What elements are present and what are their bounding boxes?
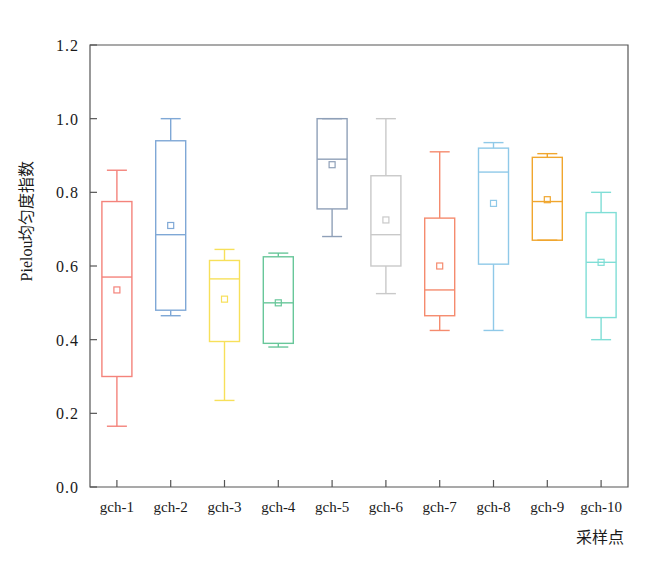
y-tick-label: 0.4 [56, 332, 79, 349]
boxplot-svg: 0.00.20.40.60.81.01.2 gch-1gch-2gch-3gch… [0, 0, 664, 577]
y-tick-label: 0.0 [56, 479, 79, 496]
x-axis-category-label: gch-5 [315, 499, 349, 515]
x-axis-category-label: gch-10 [580, 499, 622, 515]
y-tick-label: 0.8 [56, 184, 79, 201]
figure-background [0, 0, 664, 577]
x-axis-category-label: gch-7 [423, 499, 458, 515]
y-tick-label: 0.6 [56, 258, 79, 275]
x-axis-category-label: gch-9 [530, 499, 564, 515]
y-axis-title: Pielou均匀度指数 [18, 161, 35, 282]
y-tick-label: 1.2 [56, 37, 79, 54]
y-tick-label: 1.0 [56, 111, 79, 128]
chart-figure: 0.00.20.40.60.81.01.2 gch-1gch-2gch-3gch… [0, 0, 664, 577]
x-axis-category-label: gch-4 [261, 499, 296, 515]
x-axis-category-label: gch-8 [476, 499, 510, 515]
y-tick-label: 0.2 [56, 405, 79, 422]
x-axis-title: 采样点 [576, 529, 624, 546]
x-axis-category-label: gch-6 [369, 499, 404, 515]
x-axis-category-label: gch-3 [207, 499, 241, 515]
x-axis-category-label: gch-1 [100, 499, 134, 515]
x-axis-category-label: gch-2 [154, 499, 188, 515]
